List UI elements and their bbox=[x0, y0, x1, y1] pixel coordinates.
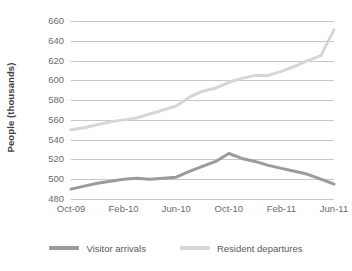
y-tick-label: 500 bbox=[48, 174, 64, 184]
legend-label: Visitor arrivals bbox=[86, 243, 145, 254]
legend-item[interactable]: Visitor arrivals bbox=[49, 243, 145, 254]
chart-legend: Visitor arrivalsResident departures bbox=[0, 238, 352, 258]
x-tick-label: Jun-10 bbox=[162, 203, 191, 214]
gridline bbox=[71, 199, 334, 200]
x-tick-label: Oct-09 bbox=[57, 203, 86, 214]
y-tick-label: 540 bbox=[48, 135, 64, 145]
x-tick-label: Oct-10 bbox=[215, 203, 244, 214]
x-tick-label: Feb-11 bbox=[267, 203, 296, 214]
x-tick-label: Feb-10 bbox=[109, 203, 139, 214]
line-chart: People (thousands) 660640620600580560540… bbox=[0, 0, 352, 271]
y-tick-label: 640 bbox=[48, 36, 64, 46]
y-tick-label: 660 bbox=[48, 16, 64, 26]
x-tick-label: Jun-11 bbox=[320, 203, 348, 214]
y-axis-tick-labels: 660640620600580560540520500480 bbox=[30, 0, 68, 215]
y-tick-label: 520 bbox=[48, 154, 64, 164]
y-tick-label: 600 bbox=[48, 75, 64, 85]
series-lines bbox=[71, 21, 334, 199]
x-axis-tick-labels: Oct-09Feb-10Jun-10Oct-10Feb-11Jun-11 bbox=[71, 201, 334, 217]
y-tick-label: 620 bbox=[48, 56, 64, 66]
legend-swatch-icon bbox=[49, 246, 79, 250]
plot-area bbox=[71, 21, 334, 199]
series-line bbox=[71, 30, 334, 130]
y-tick-label: 560 bbox=[48, 115, 64, 125]
legend-label: Resident departures bbox=[217, 243, 303, 254]
y-tick-label: 580 bbox=[48, 95, 64, 105]
legend-swatch-icon bbox=[180, 246, 210, 250]
legend-item[interactable]: Resident departures bbox=[180, 243, 303, 254]
y-axis-title-label: People (thousands) bbox=[6, 63, 17, 153]
series-line bbox=[71, 154, 334, 190]
y-axis-title: People (thousands) bbox=[0, 0, 22, 215]
